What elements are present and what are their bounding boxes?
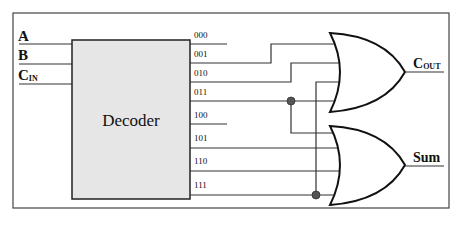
decoder-output-111-label: 111 bbox=[194, 180, 207, 190]
junction-dot-011 bbox=[287, 97, 295, 105]
decoder-output-000-label: 000 bbox=[194, 30, 208, 40]
wire-010 bbox=[190, 63, 341, 82]
input-cin-label: CIN bbox=[18, 67, 38, 83]
junction-dot-111 bbox=[312, 191, 320, 199]
decoder-label: Decoder bbox=[102, 111, 160, 130]
decoder-output-010-label: 010 bbox=[194, 68, 208, 78]
decoder-output-100-label: 100 bbox=[194, 110, 208, 120]
input-b-label: B bbox=[18, 47, 28, 63]
sum-label: Sum bbox=[413, 150, 441, 165]
input-cin: CIN bbox=[18, 67, 72, 84]
full-adder-diagram: A B CIN Decoder 000 001 010 011 100 101 … bbox=[0, 0, 464, 230]
cout-label: COUT bbox=[413, 56, 441, 71]
decoder-output-011-label: 011 bbox=[194, 87, 207, 97]
decoder-output-001-label: 001 bbox=[194, 49, 208, 59]
or-gate-cout bbox=[330, 33, 405, 112]
decoder-output-110-label: 110 bbox=[194, 156, 208, 166]
input-a: A bbox=[18, 28, 72, 44]
wire-001 bbox=[190, 44, 338, 63]
or-gate-sum bbox=[330, 126, 405, 205]
input-a-label: A bbox=[18, 28, 29, 44]
decoder-output-101-label: 101 bbox=[194, 133, 208, 143]
input-b: B bbox=[18, 47, 72, 64]
